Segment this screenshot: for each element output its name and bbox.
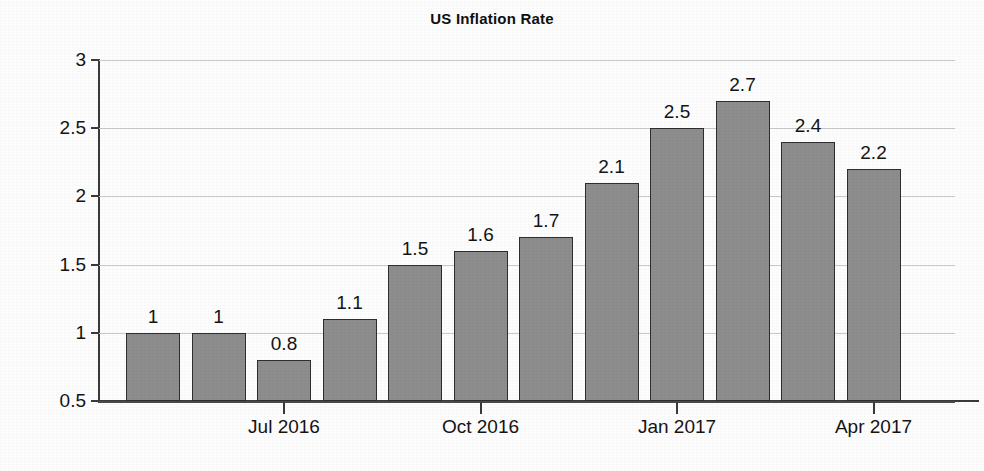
bar-value-label: 2.5: [664, 102, 690, 121]
bar-value-label: 2.2: [860, 143, 886, 162]
bar: [454, 251, 508, 401]
x-tick-label: Jan 2017: [638, 416, 716, 438]
y-tick-label: 2: [22, 186, 86, 205]
y-tick-label: 0.5: [22, 391, 86, 410]
bar: [257, 360, 311, 401]
gridline: [99, 128, 955, 129]
bar-value-label: 0.8: [271, 334, 297, 353]
bar: [585, 183, 639, 401]
bar: [716, 101, 770, 401]
y-tick-label: 1.5: [22, 255, 86, 274]
x-tick-label: Jul 2016: [248, 416, 320, 438]
x-tick-mark: [480, 402, 482, 414]
bar-value-label: 1.1: [336, 293, 362, 312]
bar-value-label: 1: [148, 307, 159, 326]
bar-value-label: 1.6: [467, 225, 493, 244]
bar-value-label: 1: [213, 307, 224, 326]
x-tick-mark: [283, 402, 285, 414]
x-tick-mark: [873, 402, 875, 414]
x-tick-label: Apr 2017: [835, 416, 912, 438]
bar-value-label: 2.7: [729, 75, 755, 94]
bar-value-label: 1.7: [533, 211, 559, 230]
bar: [126, 333, 180, 401]
y-tick-label: 2.5: [22, 118, 86, 137]
x-tick-mark: [676, 402, 678, 414]
bar-value-label: 1.5: [402, 239, 428, 258]
bar: [192, 333, 246, 401]
y-tick-label: 3: [22, 50, 86, 69]
bar-value-label: 2.4: [795, 116, 821, 135]
bar: [781, 142, 835, 401]
bar: [388, 265, 442, 401]
gridline: [99, 60, 955, 61]
y-tick-label: 1: [22, 323, 86, 342]
bar: [519, 237, 573, 401]
x-tick-label: Oct 2016: [442, 416, 519, 438]
gridline: [99, 401, 955, 403]
bar: [650, 128, 704, 401]
chart-title: US Inflation Rate: [0, 10, 984, 27]
bar-value-label: 2.1: [598, 157, 624, 176]
chart-page: US Inflation Rate 0.511.522.53 110.81.11…: [0, 0, 984, 471]
bar: [323, 319, 377, 401]
bar: [847, 169, 901, 401]
